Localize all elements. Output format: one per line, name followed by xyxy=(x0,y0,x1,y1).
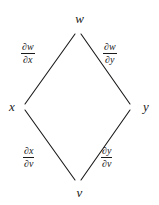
edge-label-dx-dv: ∂x ∂v xyxy=(23,145,34,169)
edge-label-dw-dy-numerator: ∂w xyxy=(103,41,117,52)
edge-label-dx-dv-denominator: ∂v xyxy=(23,158,34,169)
node-label-v: v xyxy=(0,186,159,199)
diagram-edges xyxy=(0,0,159,205)
edge-label-dw-dy-denominator: ∂y xyxy=(103,54,117,65)
edge-label-dy-dv-denominator: ∂v xyxy=(101,158,112,169)
edge-label-dy-dv-numerator: ∂y xyxy=(101,145,112,156)
node-label-w: w xyxy=(0,12,159,25)
edge-label-dw-dx: ∂w ∂x xyxy=(21,41,35,65)
edge-label-dy-dv: ∂y ∂v xyxy=(101,145,112,169)
edge-label-dx-dv-numerator: ∂x xyxy=(23,145,34,156)
edge-label-dw-dy: ∂w ∂y xyxy=(103,41,117,65)
chain-rule-diagram: w x y v ∂w ∂x ∂w ∂y ∂x ∂v ∂y ∂v xyxy=(0,0,159,205)
edge-label-dw-dx-numerator: ∂w xyxy=(21,41,35,52)
node-label-y: y xyxy=(139,100,153,113)
node-label-x: x xyxy=(5,100,19,113)
edge-label-dw-dx-denominator: ∂x xyxy=(21,54,35,65)
